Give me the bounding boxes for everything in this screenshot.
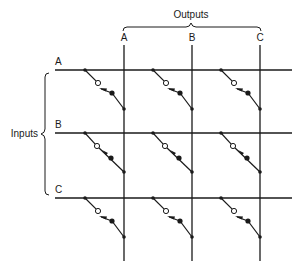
- switch-ca-arm-upper: [85, 198, 96, 209]
- switch-ca-open-terminal: [95, 208, 100, 213]
- switch-ca-arm-lower: [112, 221, 124, 237]
- input-label-a: A: [55, 57, 62, 67]
- switch-bb-arm-upper: [153, 133, 163, 144]
- inputs-brace: [41, 73, 49, 195]
- outputs-title: Outputs: [173, 10, 208, 20]
- input-label-c: C: [55, 185, 62, 195]
- switch-cb-open-terminal: [163, 208, 168, 213]
- switch-bb-open-terminal: [162, 143, 167, 148]
- switch-cb-arrow-icon: [167, 216, 175, 220]
- switch-ba-open-terminal: [94, 143, 99, 148]
- switch-ba-arm-upper: [85, 133, 95, 144]
- crossbar-grid: [55, 45, 292, 261]
- switch-ab-arm-lower: [180, 93, 192, 109]
- input-label-b: B: [55, 120, 62, 130]
- outputs-brace: [123, 23, 261, 31]
- switch-ba-pivot: [108, 155, 113, 160]
- switch-cc-open-terminal: [231, 208, 236, 213]
- switch-ca-arrow-icon: [99, 216, 107, 220]
- switch-aa-open-terminal: [95, 80, 100, 85]
- switch-ab-open-terminal: [163, 80, 168, 85]
- switch-ab-arrow-icon: [167, 88, 175, 92]
- switch-ac-arm-lower: [248, 93, 260, 109]
- switch-aa-arm-upper: [85, 70, 96, 81]
- crossbar-switch-diagram: [0, 0, 298, 270]
- switch-ac-arm-upper: [221, 70, 232, 81]
- switch-bc-open-terminal: [230, 143, 235, 148]
- switch-cc-arm-upper: [221, 198, 232, 209]
- switch-cc-arrow-icon: [235, 216, 243, 220]
- switch-ac-open-terminal: [231, 80, 236, 85]
- switch-aa-arrow-icon: [99, 88, 107, 92]
- switch-bc-pivot: [244, 155, 249, 160]
- switch-cc-arm-lower: [248, 221, 260, 237]
- switch-ac-arrow-icon: [235, 88, 243, 92]
- switch-cb-arm-upper: [153, 198, 164, 209]
- switch-cb-arm-lower: [180, 221, 192, 237]
- output-label-b: B: [189, 33, 196, 43]
- switch-ab-arm-upper: [153, 70, 164, 81]
- inputs-title: Inputs: [11, 129, 38, 139]
- switch-bc-arm-upper: [221, 133, 231, 144]
- output-label-c: C: [256, 33, 263, 43]
- switch-bb-pivot: [176, 155, 181, 160]
- output-label-a: A: [121, 33, 128, 43]
- switch-aa-arm-lower: [112, 93, 124, 109]
